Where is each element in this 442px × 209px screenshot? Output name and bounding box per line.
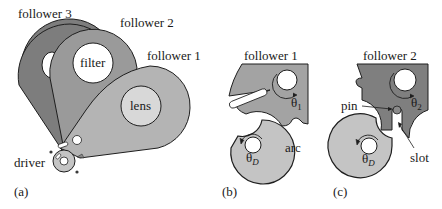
geneva-mechanism-figure: follower 3 follower 2 follower 1 filter …	[0, 0, 442, 209]
filter-label: filter	[80, 55, 106, 70]
panel-a: follower 3 follower 2 follower 1 filter …	[14, 6, 201, 199]
follower-1-label: follower 1	[147, 48, 201, 63]
arc-label: arc	[285, 140, 301, 155]
follower-2-label-c: follower 2	[363, 48, 417, 63]
slot-label: slot	[410, 150, 429, 165]
panel-a-label: (a)	[14, 184, 28, 199]
follower-2-label: follower 2	[120, 15, 174, 30]
lens-label: lens	[130, 98, 151, 113]
follower-3-label: follower 3	[18, 6, 72, 21]
panel-b: follower 1 θ1 θD arc (b)	[222, 48, 308, 199]
panel-c: follower 2 θ2 pin slot θD (c)	[328, 48, 429, 199]
panel-b-label: (b)	[222, 184, 237, 199]
driver-label: driver	[14, 155, 46, 170]
follower-1-label-b: follower 1	[244, 48, 298, 63]
panel-c-label: (c)	[333, 184, 347, 199]
pin-label: pin	[341, 98, 358, 113]
